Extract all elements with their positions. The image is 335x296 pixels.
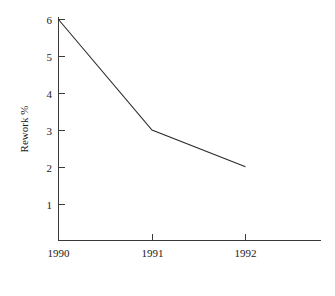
x-axis-ticks xyxy=(59,234,246,241)
line-chart: 1 2 3 4 5 6 1990 1991 1992 Rework % xyxy=(0,0,335,296)
y-tick-label-5: 5 xyxy=(47,51,53,63)
x-tick-label-1992: 1992 xyxy=(235,247,257,259)
x-tick-label-1990: 1990 xyxy=(48,247,71,259)
y-tick-label-6: 6 xyxy=(47,14,53,26)
x-tick-label-1991: 1991 xyxy=(142,247,164,259)
y-tick-label-1: 1 xyxy=(47,199,53,211)
y-axis-ticks xyxy=(59,20,66,205)
chart-canvas: 1 2 3 4 5 6 1990 1991 1992 Rework % xyxy=(0,0,335,296)
y-tick-label-2: 2 xyxy=(47,162,53,174)
y-tick-label-3: 3 xyxy=(47,125,53,137)
y-axis-tick-labels: 1 2 3 4 5 6 xyxy=(47,14,53,211)
y-tick-label-4: 4 xyxy=(47,88,53,100)
y-axis-title: Rework % xyxy=(18,106,30,153)
x-axis-tick-labels: 1990 1991 1992 xyxy=(48,247,257,259)
series-line-rework xyxy=(59,20,246,167)
